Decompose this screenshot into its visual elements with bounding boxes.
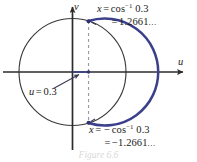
upper-value: 1.2661 xyxy=(119,16,148,27)
lower-value: −1.2661 xyxy=(112,137,148,148)
v-axis-label: v xyxy=(74,1,79,12)
upper-arg: 0.3 xyxy=(135,3,148,14)
upper-eq: = xyxy=(102,3,111,14)
lower-ellipsis: ... xyxy=(148,138,156,148)
lower-arg: 0.3 xyxy=(136,124,149,135)
lower-eq: = xyxy=(94,124,103,135)
annotation-upper-solution-line1: x=cos−1 0.3 xyxy=(97,3,157,16)
annotation-lower-solution: x=−cos−1 0.3 =−1.2661... xyxy=(89,124,156,149)
u-value-pointer-arrow xyxy=(54,75,80,89)
figure-unit-circle: v u x=cos−1 0.3 =1.2661... x=−cos−1 0.3 … xyxy=(0,0,197,162)
annotation-lower-solution-line2: =−1.2661... xyxy=(89,137,156,150)
annotation-upper-solution-line2: =1.2661... xyxy=(97,16,157,29)
annotation-lower-solution-line1: x=−cos−1 0.3 xyxy=(89,124,156,137)
lower-sup: −1 xyxy=(126,123,133,130)
annotation-upper-solution: x=cos−1 0.3 =1.2661... xyxy=(97,3,157,28)
lower-fn: cos xyxy=(112,124,126,135)
figure-caption: Figure 6.6 xyxy=(0,150,197,160)
upper-sup: −1 xyxy=(125,2,132,9)
lower-eq2: = xyxy=(103,137,112,148)
upper-fn: cos xyxy=(111,3,125,14)
point-u-value-marker xyxy=(87,70,90,73)
u-axis-label: u xyxy=(178,56,183,67)
lower-sign: − xyxy=(103,124,112,135)
upper-eq2: = xyxy=(110,16,119,27)
u-value-num: 0.3 xyxy=(43,86,56,97)
annotation-u-value: u=0.3 xyxy=(29,86,57,99)
point-upper-solution xyxy=(87,19,91,23)
upper-ellipsis: ... xyxy=(149,17,157,27)
